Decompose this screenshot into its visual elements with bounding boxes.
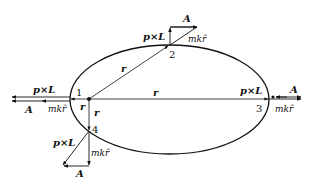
- p3-dot: [271, 95, 274, 98]
- radius-label-2: r: [121, 63, 127, 74]
- p4-mkr-label: mkr̂: [91, 148, 110, 158]
- radius-label-1: r: [80, 101, 86, 112]
- point-label-1: 1: [76, 87, 82, 98]
- p1-A-label: A: [24, 104, 33, 115]
- p3-pxL-label: p×L: [240, 85, 262, 96]
- point-label-4: 4: [92, 124, 98, 135]
- radius-label-4: r: [94, 107, 100, 118]
- p4-pxL-label: p×L: [53, 137, 75, 148]
- p4-A-label: A: [75, 168, 84, 179]
- p3-A-label: A: [289, 84, 298, 95]
- p2-mkr-label: mkr̂: [188, 34, 207, 44]
- p1-mkr-label: mkr̂: [48, 104, 67, 114]
- p2-pxL-label: p×L: [143, 31, 165, 42]
- orbit-ellipse: [70, 45, 269, 154]
- p3-mkr-label: mkr̂: [275, 104, 294, 114]
- p1-pxL-label: p×L: [33, 84, 55, 95]
- point-label-3: 3: [256, 103, 262, 114]
- p2-A-label: A: [182, 13, 191, 24]
- point-label-2: 2: [169, 49, 175, 60]
- orbit-diagram: r r r r 1 2 3 4 p×L mkr̂ A p×L A mkr̂ p×…: [0, 0, 309, 181]
- radius-label-3: r: [153, 87, 159, 98]
